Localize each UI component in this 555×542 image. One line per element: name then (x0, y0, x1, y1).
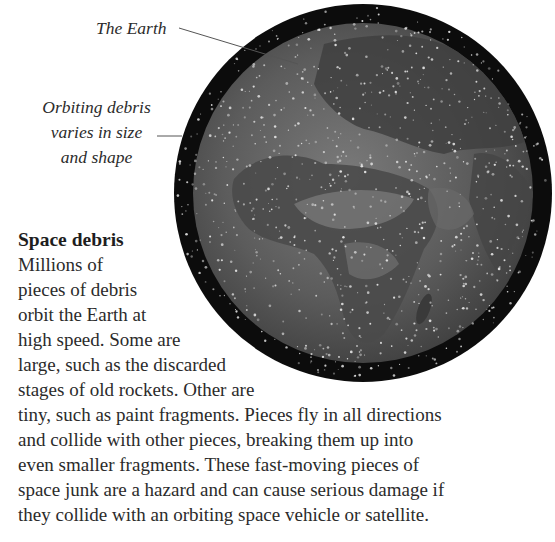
article-line-2: pieces of debris (18, 277, 548, 302)
earth-label: The Earth (96, 16, 167, 41)
article-line-7: tiny, such as paint fragments. Pieces fl… (18, 402, 548, 427)
article-line-6: stages of old rockets. Other are (18, 377, 548, 402)
article-heading: Space debris (18, 227, 548, 252)
article-line-3: orbit the Earth at (18, 302, 548, 327)
debris-label-line-2: varies in size (34, 120, 159, 145)
article-line-11: they collide with an orbiting space vehi… (18, 502, 548, 527)
debris-label: Orbiting debris varies in size and shape (34, 95, 159, 170)
article-line-9: even smaller fragments. These fast-movin… (18, 452, 548, 477)
article-line-10: space junk are a hazard and can cause se… (18, 477, 548, 502)
article-line-1: Millions of (18, 252, 548, 277)
debris-label-line-3: and shape (34, 145, 159, 170)
article-line-8: and collide with other pieces, breaking … (18, 427, 548, 452)
article-line-4: high speed. Some are (18, 327, 548, 352)
article-line-5: large, such as the discarded (18, 352, 548, 377)
article-body: Space debris Millions of pieces of debri… (18, 227, 548, 527)
debris-label-line-1: Orbiting debris (34, 95, 159, 120)
